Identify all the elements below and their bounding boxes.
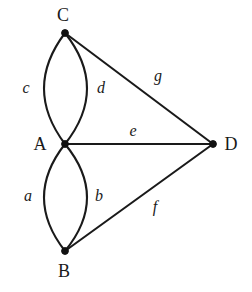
edge-label-d: d [97, 80, 105, 96]
graph-edge-a [65, 144, 87, 251]
vertex-label-A: A [33, 135, 46, 153]
graph-node-D [210, 141, 217, 148]
graph-node-B [62, 248, 69, 255]
edge-label-e: e [129, 123, 136, 139]
graph-node-A [62, 141, 69, 148]
edge-label-a: a [24, 188, 32, 204]
multigraph-diagram: CABD cdabegf [0, 0, 252, 292]
edge-label-g: g [154, 68, 162, 84]
graph-node-C [62, 30, 69, 37]
vertex-label-C: C [57, 6, 69, 24]
graph-edge-b [44, 144, 65, 251]
vertex-label-B: B [58, 262, 70, 280]
edge-label-c: c [22, 80, 29, 96]
edge-label-f: f [153, 199, 157, 215]
node-layer [62, 30, 217, 255]
vertex-label-D: D [224, 135, 237, 153]
edge-layer [44, 33, 213, 251]
edge-label-b: b [95, 188, 103, 204]
graph-edge-d [44, 33, 65, 144]
graph-edge-c [65, 33, 87, 144]
